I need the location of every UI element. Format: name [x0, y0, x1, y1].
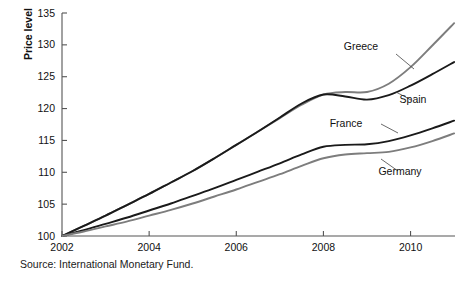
x-axis-ticks — [62, 231, 411, 236]
series-line-germany — [62, 133, 454, 236]
x-tick-label: 2002 — [50, 241, 74, 253]
series-label-spain: Spain — [400, 93, 427, 105]
leader-line-france — [381, 124, 398, 133]
y-tick-label: 125 — [37, 70, 55, 82]
series-label-greece: Greece — [344, 40, 379, 52]
chart-figure: 100105110115120125130135 200220042006200… — [0, 0, 471, 285]
y-tick-label: 100 — [37, 230, 55, 242]
y-axis-tick-labels: 100105110115120125130135 — [37, 7, 55, 242]
y-tick-label: 105 — [37, 198, 55, 210]
series-label-france: France — [330, 117, 363, 129]
y-tick-label: 120 — [37, 102, 55, 114]
series-line-spain — [62, 62, 454, 236]
leader-line-greece — [396, 54, 414, 69]
x-tick-label: 2004 — [137, 241, 161, 253]
series-line-greece — [62, 23, 454, 236]
x-tick-label: 2008 — [312, 241, 336, 253]
y-tick-label: 130 — [37, 38, 55, 50]
y-tick-label: 135 — [37, 7, 55, 19]
chart-axes — [62, 13, 455, 236]
x-tick-label: 2010 — [399, 241, 423, 253]
y-tick-label: 110 — [38, 166, 55, 178]
y-axis-ticks — [62, 13, 67, 236]
x-axis-tick-labels: 20022004200620082010 — [50, 241, 422, 253]
series-label-germany: Germany — [378, 165, 422, 177]
y-tick-label: 115 — [38, 134, 55, 146]
source-note: Source: International Monetary Fund. — [20, 258, 193, 270]
price-level-line-chart: 100105110115120125130135 200220042006200… — [0, 0, 471, 285]
y-axis-title: Price level — [22, 8, 34, 60]
x-tick-label: 2006 — [225, 241, 249, 253]
series-annotations: GreeceSpainFranceGermany — [330, 40, 427, 177]
series-lines — [62, 23, 454, 236]
series-line-france — [62, 121, 454, 236]
